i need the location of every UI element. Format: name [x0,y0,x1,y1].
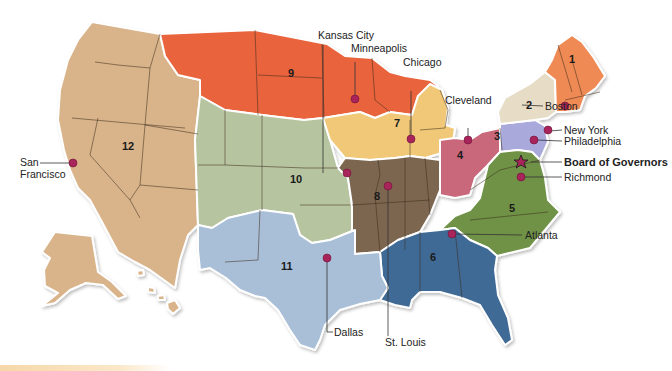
label-cleveland: Cleveland [445,94,492,106]
label-st-louis: St. Louis [385,336,426,348]
district-7-label: 7 [394,117,400,129]
pin-kansas-city[interactable] [343,169,351,177]
label-dallas: Dallas [334,326,363,338]
label-board-of-governors: Board of Governors [564,156,668,168]
pin-cleveland[interactable] [464,136,472,144]
label-atlanta: Atlanta [525,229,558,241]
pin-san-francisco[interactable] [69,159,77,167]
label-richmond: Richmond [564,171,611,183]
district-6-label: 6 [430,251,436,263]
district-9-label: 9 [288,67,294,79]
pin-dallas[interactable] [323,254,331,262]
district-10-label: 10 [290,173,302,185]
label-chicago: Chicago [403,56,442,68]
district-2-region [498,72,556,124]
pin-minneapolis[interactable] [351,95,359,103]
pin-chicago[interactable] [407,135,415,143]
pin-st-louis[interactable] [384,182,392,190]
pin-atlanta[interactable] [448,230,456,238]
district-3-label: 3 [494,130,500,142]
label-san-francisco-line2: Francisco [20,168,66,180]
label-kansas-city: Kansas City [318,29,375,41]
label-san-francisco-line1: San [20,156,39,168]
pin-richmond[interactable] [517,173,525,181]
label-minneapolis: Minneapolis [351,42,407,54]
federal-reserve-districts-map: 1 2 3 4 5 6 7 8 9 10 11 12 [0,0,672,371]
label-boston: Boston [545,100,578,112]
district-8-label: 8 [374,190,380,202]
pin-philadelphia[interactable] [530,136,538,144]
district-5-label: 5 [509,202,515,214]
bottom-accent-bar [0,365,170,371]
district-11-label: 11 [281,260,293,272]
district-12-label: 12 [122,140,134,152]
district-1-label: 1 [569,53,575,65]
label-philadelphia: Philadelphia [564,135,621,147]
pin-new-york[interactable] [544,126,552,134]
district-4-label: 4 [457,149,464,161]
